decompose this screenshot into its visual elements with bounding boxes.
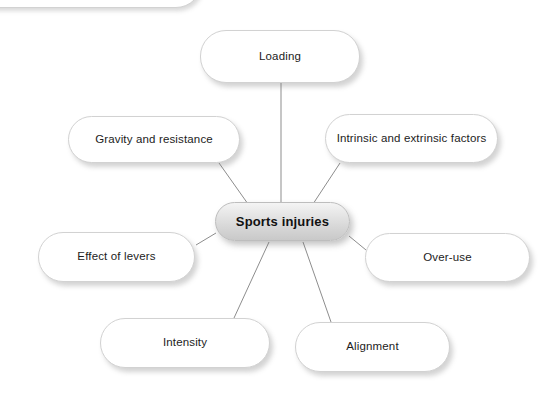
branch-node[interactable]: Intensity [100,318,270,368]
connector-line [234,242,269,318]
connector-line [219,163,248,204]
connector-line [303,242,331,322]
cropped-node-top-left [0,0,202,8]
branch-node[interactable]: Over-use [365,233,530,282]
branch-node[interactable]: Alignment [295,322,450,372]
center-node-sports-injuries[interactable]: Sports injuries [215,202,350,241]
branch-node[interactable]: Loading [200,30,360,83]
connector-line [196,233,216,245]
spider-diagram: LoadingIntrinsic and extrinsic factorsOv… [0,0,560,402]
branch-node[interactable]: Intrinsic and extrinsic factors [325,114,498,163]
connector-line [349,236,366,250]
branch-node[interactable]: Gravity and resistance [68,116,240,163]
branch-node[interactable]: Effect of levers [38,232,195,282]
connector-line [313,163,340,204]
